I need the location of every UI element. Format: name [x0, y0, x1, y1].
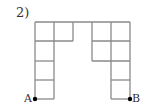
point-a-dot — [33, 97, 37, 101]
point-a-label: A — [24, 92, 32, 105]
grid-diagram — [0, 0, 148, 111]
point-b-label: B — [132, 92, 140, 105]
